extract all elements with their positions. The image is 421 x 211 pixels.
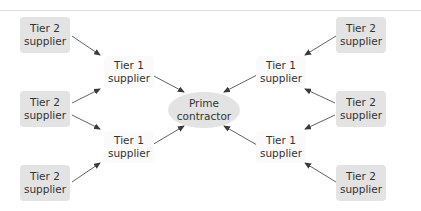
- tier1-supplier-top-right: Tier 1 supplier: [256, 56, 306, 88]
- node-label-line1: Prime: [189, 97, 219, 110]
- node-label-line2: supplier: [24, 109, 66, 122]
- node-label-line2: supplier: [108, 72, 150, 85]
- node-label-line2: supplier: [24, 183, 66, 196]
- node-label-line1: Tier 2: [30, 170, 60, 183]
- node-label-line2: supplier: [260, 72, 302, 85]
- node-label-line2: supplier: [24, 35, 66, 48]
- arrow-t1-top-right-to-prime: [224, 75, 257, 92]
- node-label-line2: supplier: [260, 147, 302, 160]
- tier2-supplier-left-middle: Tier 2 supplier: [20, 91, 70, 127]
- node-label-line2: supplier: [340, 109, 382, 122]
- node-label-line1: Tier 2: [346, 22, 376, 35]
- arrow-t1-bottom-right-to-prime: [224, 126, 257, 145]
- tier2-supplier-right-middle: Tier 2 supplier: [336, 91, 386, 127]
- node-label-line1: Tier 1: [114, 59, 144, 72]
- tier2-supplier-right-top: Tier 2 supplier: [336, 17, 386, 53]
- node-label-line1: Tier 1: [114, 134, 144, 147]
- tier2-supplier-left-bottom: Tier 2 supplier: [20, 165, 70, 201]
- tier1-supplier-top-left: Tier 1 supplier: [104, 56, 154, 88]
- node-label-line2: contractor: [177, 110, 231, 123]
- tier2-supplier-left-top: Tier 2 supplier: [20, 17, 70, 53]
- arrow-t1-top-left-to-prime: [152, 75, 184, 92]
- arrow-t2-right-middle-to-t1-top-right: [305, 89, 335, 103]
- node-label-line1: Tier 1: [266, 59, 296, 72]
- node-label-line2: supplier: [340, 183, 382, 196]
- arrow-t2-left-top-to-t1-top-left: [72, 36, 100, 55]
- node-label-line2: supplier: [340, 35, 382, 48]
- node-label-line1: Tier 2: [30, 96, 60, 109]
- arrow-t2-right-middle-to-t1-bottom-right: [305, 115, 335, 129]
- arrow-t2-right-top-to-t1-top-right: [305, 36, 336, 55]
- prime-contractor-node: Prime contractor: [168, 92, 240, 128]
- tier1-supplier-bottom-left: Tier 1 supplier: [104, 131, 154, 163]
- arrow-t1-bottom-left-to-prime: [152, 126, 184, 145]
- arrow-t2-left-middle-to-t1-top-left: [72, 89, 100, 103]
- node-label-line1: Tier 1: [266, 134, 296, 147]
- node-label-line1: Tier 2: [346, 96, 376, 109]
- arrow-t2-left-middle-to-t1-bottom-left: [72, 115, 100, 129]
- arrow-t2-right-bottom-to-t1-bottom-right: [305, 163, 336, 182]
- node-label-line2: supplier: [108, 147, 150, 160]
- node-label-line1: Tier 2: [30, 22, 60, 35]
- node-label-line1: Tier 2: [346, 170, 376, 183]
- arrow-t2-left-bottom-to-t1-bottom-left: [72, 163, 100, 182]
- tier1-supplier-bottom-right: Tier 1 supplier: [256, 131, 306, 163]
- tier2-supplier-right-bottom: Tier 2 supplier: [336, 165, 386, 201]
